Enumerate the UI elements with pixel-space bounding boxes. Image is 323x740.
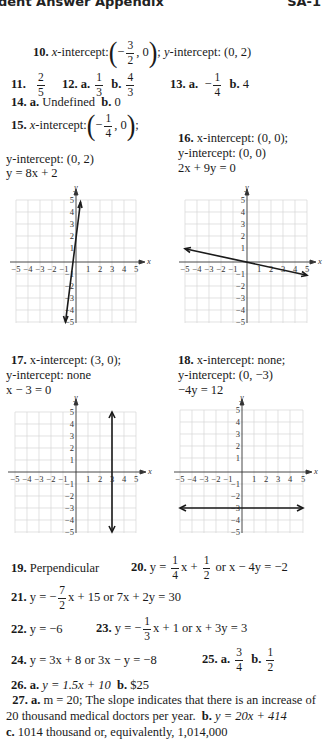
x-intercept-value: x-intercept: none;: [197, 353, 286, 367]
answer-16-y-intercept: y-intercept: (0, 0): [178, 146, 266, 161]
denominator: 4: [105, 127, 111, 140]
svg-text:5: 5: [236, 405, 240, 415]
graph-15: x y −5−4−3−2−112345 54321−1−2−3−4−5: [0, 186, 160, 336]
equation-part: y = −: [115, 621, 142, 635]
answer-19: 19. Perpendicular: [11, 561, 99, 576]
svg-text:3: 3: [70, 219, 74, 229]
svg-text:−4: −4: [187, 474, 197, 484]
x-intercept-value: x-intercept: (3, 0);: [30, 353, 121, 367]
fraction: 14: [213, 72, 221, 98]
answer-number: 21.: [11, 590, 27, 604]
svg-text:−3: −3: [34, 474, 43, 484]
part-b-value: 4: [243, 77, 249, 91]
svg-text:2: 2: [70, 231, 74, 241]
part-a-value: Undefined: [42, 95, 95, 109]
page-header-title: dent Answer Appendix: [0, 0, 164, 9]
equation-part: or x − 4y = −2: [216, 560, 288, 574]
left-paren: (: [109, 39, 118, 68]
answer-value: y = 3x + 8 or 3x − y = −8: [30, 653, 157, 667]
answer-value: Perpendicular: [30, 561, 99, 575]
y-axis-label: y: [73, 396, 78, 402]
graph-18: x y −5−4−3−2−112345 54321−1−2−3−4−5: [166, 396, 323, 546]
separator: ;: [157, 45, 160, 59]
part-b-label: b.: [229, 77, 239, 91]
svg-text:5: 5: [70, 195, 74, 205]
part-b-label: b.: [111, 77, 121, 91]
fraction: 32: [126, 40, 134, 66]
graph-17: x y −5−4−3−2−112345 54321−1−2−3−4−5: [0, 396, 160, 546]
svg-text:−4: −4: [22, 474, 32, 484]
x-tick-labels: −5−4−3−2−112345: [11, 264, 138, 274]
equation-part: x +: [181, 560, 197, 574]
equation-part: x + 15 or 7x + 2y = 30: [68, 590, 181, 604]
svg-text:5: 5: [70, 407, 74, 417]
answer-number: 23.: [96, 621, 112, 635]
denominator: 2: [267, 661, 273, 674]
svg-text:−2: −2: [216, 264, 225, 274]
svg-text:−2: −2: [65, 491, 74, 501]
denominator: 4: [172, 569, 178, 582]
answer-13: 13. a. −14 b. 4: [170, 72, 249, 98]
svg-text:3: 3: [236, 429, 240, 439]
denominator: 2: [59, 599, 65, 612]
axes: [8, 399, 146, 533]
svg-text:2: 2: [236, 441, 240, 451]
svg-text:−4: −4: [236, 305, 246, 315]
axes: [179, 189, 316, 323]
axes: [10, 189, 145, 323]
fraction: 43: [126, 72, 134, 98]
x-tick-labels: −5−4−3−2−112345: [175, 474, 305, 484]
fraction: 72: [58, 585, 66, 611]
svg-text:−5: −5: [10, 474, 19, 484]
answer-number: 27.: [12, 693, 28, 707]
zero: , 0: [136, 45, 149, 59]
answer-number: 19.: [11, 561, 27, 575]
answer-17: 17. x-intercept: (3, 0);: [11, 353, 121, 368]
answer-24: 24. y = 3x + 8 or 3x − y = −8: [11, 653, 157, 668]
svg-text:−5: −5: [231, 527, 240, 537]
svg-text:4: 4: [288, 474, 293, 484]
answer-10: 10. x-intercept:(−32, 0); y-intercept: (…: [33, 40, 251, 66]
numerator: 7: [58, 585, 66, 599]
svg-text:−4: −4: [65, 515, 75, 525]
svg-text:−2: −2: [47, 264, 56, 274]
answer-14: 14. a. Undefined b. 0: [11, 95, 121, 110]
denominator: 2: [127, 54, 133, 67]
minus-sign: −: [117, 45, 124, 59]
svg-text:−3: −3: [204, 264, 213, 274]
svg-text:5: 5: [134, 264, 138, 274]
svg-text:3: 3: [70, 431, 74, 441]
denominator: 4: [236, 661, 242, 674]
answer-number: 17.: [11, 353, 27, 367]
svg-text:−4: −4: [192, 264, 202, 274]
answer-number: 18.: [178, 353, 194, 367]
answer-15-y-intercept: y-intercept: (0, 2): [6, 152, 94, 167]
svg-text:4: 4: [122, 264, 127, 274]
svg-text:1: 1: [236, 453, 240, 463]
numerator: 1: [171, 555, 179, 569]
numerator: 4: [126, 72, 134, 86]
right-paren: ): [149, 39, 158, 68]
part-c-value: 1014 thousand or, equivalently, 1,014,00…: [18, 725, 228, 739]
svg-text:2: 2: [98, 264, 102, 274]
svg-text:4: 4: [122, 474, 127, 484]
x-intercept-label: -intercept:: [57, 45, 108, 59]
x-axis-label: x: [146, 256, 151, 266]
numerator: 1: [203, 555, 211, 569]
answer-22: 22. y = −6: [11, 622, 63, 637]
y-axis-label: y: [244, 186, 249, 192]
grid: [15, 412, 136, 533]
numerator: 3: [235, 647, 243, 661]
x-tick-labels: −5−4−3−2−112345: [10, 474, 138, 484]
answer-23: 23. y = −13x + 1 or x + 3y = 3: [96, 616, 247, 642]
numerator: 1: [143, 616, 151, 630]
answer-number: 16.: [178, 131, 194, 145]
fraction: 14: [171, 555, 179, 581]
right-paren: ): [127, 112, 136, 141]
y-axis-label: y: [239, 396, 244, 402]
numerator: 1: [95, 72, 103, 86]
left-paren: (: [87, 112, 96, 141]
svg-text:5: 5: [305, 264, 309, 274]
svg-text:−1: −1: [65, 479, 74, 489]
svg-text:−4: −4: [23, 264, 33, 274]
